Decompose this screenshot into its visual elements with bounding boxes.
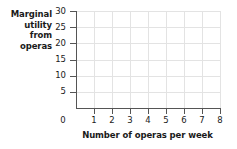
x-tick-label-4: 4 [140,116,156,125]
x-tick-label-3: 3 [122,116,138,125]
y-tick-label-20: 20 [44,39,66,48]
x-tick-label-8: 8 [212,116,228,125]
plot-top-edge [76,11,221,12]
gridline-vertical-3 [130,11,131,108]
x-tick-mark-4 [148,109,149,114]
plot-area [76,11,220,108]
y-tick-mark-5 [70,92,76,93]
gridline-vertical-4 [148,11,149,108]
x-tick-mark-6 [184,109,185,114]
chart-figure: Marginal utility from operas 30 25 20 15… [0,0,237,149]
y-tick-label-15: 15 [44,55,66,64]
gridline-vertical-1 [94,11,95,108]
x-tick-mark-7 [202,109,203,114]
y-tick-label-30: 30 [44,7,66,16]
gridline-vertical-2 [112,11,113,108]
x-tick-mark-3 [130,109,131,114]
y-tick-mark-20 [70,43,76,44]
y-tick-mark-25 [70,27,76,28]
gridline-vertical-5 [166,11,167,108]
x-axis-title: Number of operas per week [60,130,235,140]
y-tick-label-5: 5 [44,87,66,96]
x-tick-mark-2 [112,109,113,114]
y-tick-label-10: 10 [44,71,66,80]
y-tick-mark-30 [70,11,76,12]
x-tick-mark-1 [94,109,95,114]
x-tick-label-1: 1 [86,116,102,125]
y-tick-mark-10 [70,76,76,77]
x-tick-mark-8 [220,109,221,114]
x-tick-label-6: 6 [176,116,192,125]
gridline-vertical-6 [184,11,185,108]
gridline-vertical-7 [202,11,203,108]
x-tick-label-5: 5 [158,116,174,125]
x-tick-label-0: 0 [55,116,71,125]
x-tick-label-7: 7 [194,116,210,125]
x-tick-mark-5 [166,109,167,114]
y-tick-label-25: 25 [44,23,66,32]
y-tick-mark-15 [70,60,76,61]
plot-right-edge [220,11,221,109]
y-axis-line [76,11,77,109]
x-tick-label-2: 2 [104,116,120,125]
